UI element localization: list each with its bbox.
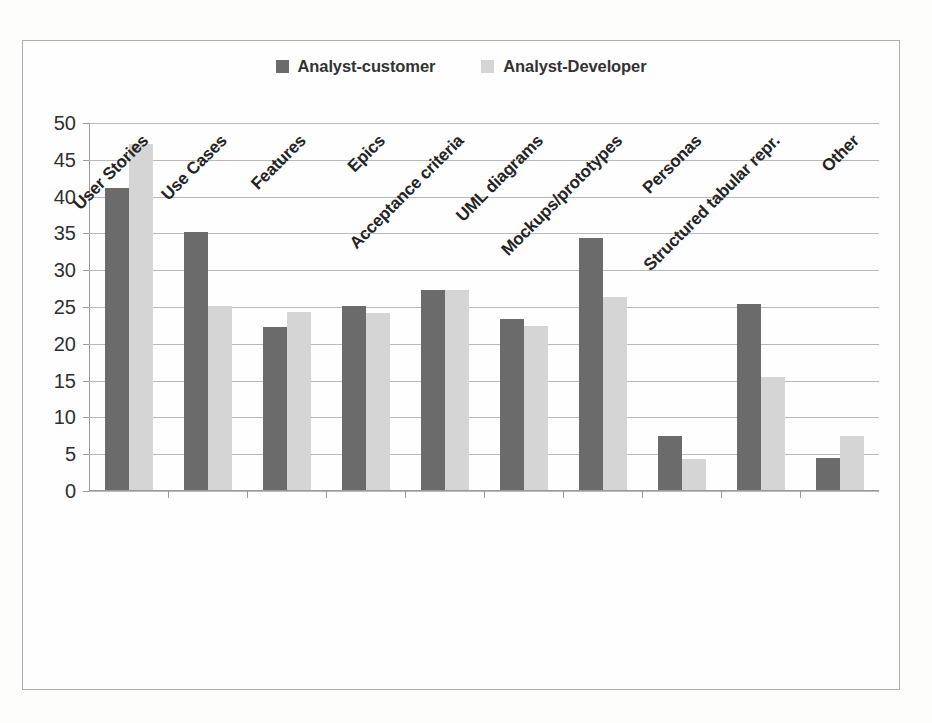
y-axis-tick-label: 5: [65, 443, 76, 466]
bar[interactable]: [761, 377, 785, 490]
bar[interactable]: [658, 436, 682, 490]
y-axis-tick-label: 35: [54, 222, 76, 245]
bar[interactable]: [445, 290, 469, 490]
x-axis-tick: [642, 491, 643, 498]
y-axis-tick-label: 30: [54, 259, 76, 282]
x-axis-tick: [247, 491, 248, 498]
bar[interactable]: [682, 459, 706, 490]
square-swatch-icon: [481, 60, 494, 73]
bar[interactable]: [342, 306, 366, 490]
legend-label: Analyst-Developer: [503, 57, 646, 76]
bar[interactable]: [737, 304, 761, 490]
chart-frame: Analyst-customer Analyst-Developer 50454…: [22, 40, 900, 690]
y-axis-tick: [83, 491, 89, 492]
bar[interactable]: [603, 297, 627, 490]
bar-group: [326, 122, 405, 490]
legend-item-analyst-customer[interactable]: Analyst-customer: [276, 57, 436, 76]
bar[interactable]: [816, 458, 840, 490]
y-axis-tick-label: 45: [54, 148, 76, 171]
x-axis-tick: [405, 491, 406, 498]
y-axis-tick-label: 10: [54, 406, 76, 429]
bar[interactable]: [840, 436, 864, 490]
bar[interactable]: [421, 290, 445, 490]
bar[interactable]: [287, 312, 311, 490]
x-axis-tick: [563, 491, 564, 498]
y-axis-tick-label: 15: [54, 369, 76, 392]
legend-item-analyst-developer[interactable]: Analyst-Developer: [481, 57, 646, 76]
bar[interactable]: [579, 238, 603, 490]
x-axis-tick: [168, 491, 169, 498]
bar[interactable]: [366, 313, 390, 490]
y-axis-tick-label: 20: [54, 332, 76, 355]
bar[interactable]: [105, 188, 129, 490]
y-axis-tick-label: 50: [54, 112, 76, 135]
chart-legend: Analyst-customer Analyst-Developer: [23, 57, 899, 76]
y-axis-tick-label: 0: [65, 480, 76, 503]
bar[interactable]: [524, 326, 548, 490]
legend-label: Analyst-customer: [298, 57, 436, 76]
square-swatch-icon: [276, 60, 289, 73]
bar[interactable]: [184, 232, 208, 490]
bar[interactable]: [129, 144, 153, 490]
bar[interactable]: [208, 306, 232, 490]
x-axis-tick: [721, 491, 722, 498]
plot-area: 50454035302520151050 User StoriesUse Cas…: [89, 123, 879, 491]
y-axis-tick-label: 25: [54, 296, 76, 319]
bar[interactable]: [263, 327, 287, 490]
bar[interactable]: [500, 319, 524, 490]
x-axis-tick: [326, 491, 327, 498]
x-axis-tick: [800, 491, 801, 498]
x-axis-tick: [484, 491, 485, 498]
bar-group: [800, 122, 879, 490]
